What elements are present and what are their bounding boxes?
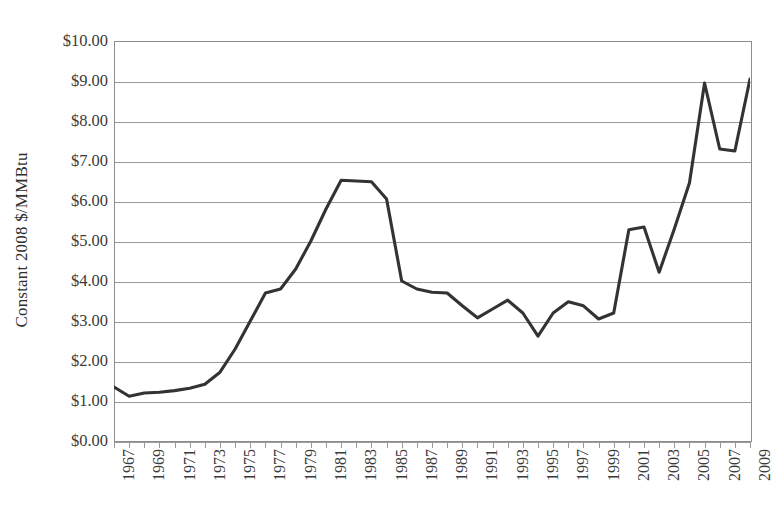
x-axis-tick	[659, 442, 660, 448]
x-axis-tick	[705, 442, 706, 448]
x-axis-tick	[447, 442, 448, 448]
x-axis-tick-label: 1971	[182, 449, 198, 481]
x-axis-tick-label: 1967	[121, 449, 137, 481]
x-axis-tick-label: 2005	[696, 449, 712, 481]
x-axis-tick-label: 2009	[757, 449, 773, 481]
x-axis-tick-label: 1973	[212, 449, 228, 481]
x-axis-tick	[568, 442, 569, 448]
x-axis-tick	[144, 442, 145, 448]
x-axis-tick	[477, 442, 478, 448]
x-axis-tick	[462, 442, 463, 448]
y-axis-tick-label: $8.00	[42, 113, 108, 130]
x-axis-tick	[402, 442, 403, 448]
x-axis-tick	[629, 442, 630, 448]
x-axis-tick	[750, 442, 751, 448]
x-axis-tick-label: 1977	[272, 449, 288, 481]
x-axis-tick-label: 1985	[394, 449, 410, 481]
line-chart: Constant 2008 $/MMBtu $10.00$9.00$8.00$7…	[0, 0, 779, 518]
x-axis-tick	[599, 442, 600, 448]
x-axis-tick	[296, 442, 297, 448]
x-axis-tick	[417, 442, 418, 448]
x-axis-tick	[341, 442, 342, 448]
x-axis-tick-label: 1997	[575, 449, 591, 481]
x-axis-tick-label: 1969	[151, 449, 167, 481]
x-axis-tick	[250, 442, 251, 448]
x-axis-tick-labels: 1967196919711973197519771979198119831985…	[114, 449, 751, 518]
y-axis-tick-label: $7.00	[42, 153, 108, 170]
x-axis-tick	[235, 442, 236, 448]
y-axis-tick-labels: $10.00$9.00$8.00$7.00$6.00$5.00$4.00$3.0…	[34, 0, 108, 518]
x-axis-tick	[508, 442, 509, 448]
x-axis-tick	[311, 442, 312, 448]
x-axis-tick	[190, 442, 191, 448]
y-axis-tick-label: $1.00	[42, 393, 108, 410]
x-axis-tick-label: 1981	[333, 449, 349, 481]
x-axis-tick-label: 1991	[484, 449, 500, 481]
x-axis-tick	[371, 442, 372, 448]
x-axis-tick	[205, 442, 206, 448]
x-axis-tick	[220, 442, 221, 448]
x-axis-tick	[523, 442, 524, 448]
data-series-line	[114, 41, 750, 441]
x-axis-tick-label: 2001	[636, 449, 652, 481]
x-axis-tick-label: 2003	[666, 449, 682, 481]
x-axis-ticks	[114, 442, 751, 449]
series-polyline	[114, 79, 750, 396]
y-axis-tick-label: $2.00	[42, 353, 108, 370]
x-axis-tick	[583, 442, 584, 448]
x-axis-tick	[735, 442, 736, 448]
x-axis-tick	[432, 442, 433, 448]
x-axis-tick	[175, 442, 176, 448]
y-axis-title: Constant 2008 $/MMBtu	[10, 40, 34, 440]
y-axis-tick-label: $6.00	[42, 193, 108, 210]
x-axis-tick	[493, 442, 494, 448]
x-axis-tick-label: 1987	[424, 449, 440, 481]
y-axis-tick-label: $5.00	[42, 233, 108, 250]
x-axis-tick	[674, 442, 675, 448]
x-axis-tick-label: 1995	[545, 449, 561, 481]
y-axis-title-text: Constant 2008 $/MMBtu	[12, 152, 32, 327]
x-axis-tick	[114, 442, 115, 448]
x-axis-tick	[326, 442, 327, 448]
x-axis-tick-label: 1999	[606, 449, 622, 481]
x-axis-tick	[356, 442, 357, 448]
x-axis-tick	[720, 442, 721, 448]
x-axis-tick	[281, 442, 282, 448]
x-axis-tick	[159, 442, 160, 448]
y-axis-tick-label: $4.00	[42, 273, 108, 290]
x-axis-tick	[553, 442, 554, 448]
y-axis-tick-label: $0.00	[42, 433, 108, 450]
x-axis-tick	[538, 442, 539, 448]
x-axis-tick	[129, 442, 130, 448]
y-axis-tick-label: $3.00	[42, 313, 108, 330]
y-axis-tick-label: $9.00	[42, 73, 108, 90]
x-axis-tick	[644, 442, 645, 448]
y-axis-tick-label: $10.00	[42, 33, 108, 50]
x-axis-tick	[265, 442, 266, 448]
x-axis-tick	[689, 442, 690, 448]
x-axis-tick-label: 1975	[242, 449, 258, 481]
x-axis-tick-label: 1983	[363, 449, 379, 481]
x-axis-tick	[387, 442, 388, 448]
x-axis-tick-label: 1989	[454, 449, 470, 481]
x-axis-tick-label: 1979	[303, 449, 319, 481]
x-axis-tick-label: 2007	[727, 449, 743, 481]
x-axis-tick-label: 1993	[515, 449, 531, 481]
x-axis-tick	[614, 442, 615, 448]
